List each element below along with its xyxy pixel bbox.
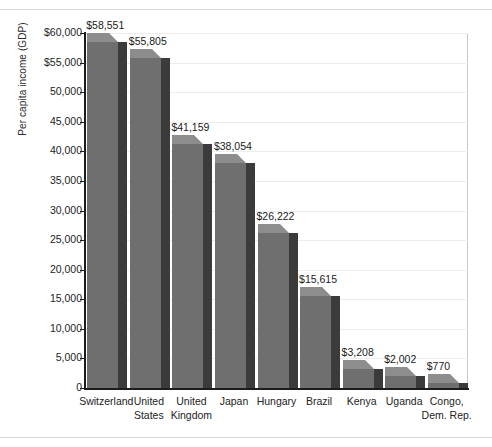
bar-side-face — [374, 369, 383, 388]
y-axis-tick — [80, 181, 84, 182]
y-axis-tick-label: 40,000 — [20, 145, 82, 156]
bar-front-face — [258, 233, 289, 388]
y-axis-line — [84, 32, 86, 389]
y-axis-tick — [80, 122, 84, 123]
bar-top-face — [87, 33, 118, 42]
bar-top-face — [258, 224, 289, 233]
bar-value-label: $55,805 — [129, 35, 167, 47]
y-axis-tick-label: 15,000 — [20, 293, 82, 304]
y-axis-tick-label: 25,000 — [20, 234, 82, 245]
bar-value-label: $15,615 — [299, 273, 337, 285]
y-axis-tick — [80, 240, 84, 241]
bar-top-face — [428, 374, 459, 383]
x-axis-category-line: Kingdom — [164, 409, 219, 423]
y-axis-tick-label: 10,000 — [20, 323, 82, 334]
bar-value-label: $38,054 — [214, 140, 252, 152]
bar-side-face — [161, 58, 170, 388]
y-axis-tick-label: 30,000 — [20, 205, 82, 216]
y-axis-tick-label: 0 — [20, 382, 82, 393]
y-axis-tick-label: 35,000 — [20, 175, 82, 186]
bar-top-face — [215, 154, 246, 163]
bar — [428, 374, 459, 388]
bar-side-face — [331, 296, 340, 388]
bar — [87, 33, 118, 388]
y-axis-tick-label: 45,000 — [20, 116, 82, 127]
y-axis-tick-label: 20,000 — [20, 264, 82, 275]
bar — [258, 224, 289, 388]
bar-front-face — [300, 296, 331, 388]
bar-side-face — [289, 233, 298, 388]
bar-front-face — [87, 42, 118, 388]
y-axis-tick — [80, 92, 84, 93]
bar-front-face — [215, 163, 246, 388]
y-axis-tick — [80, 33, 84, 34]
bar-value-label: $41,159 — [171, 121, 209, 133]
bar-value-label: $26,222 — [257, 210, 295, 222]
bar-front-face — [385, 376, 416, 388]
bar — [172, 135, 203, 388]
bar-front-face — [172, 144, 203, 388]
y-axis-tick-label: $60,000 — [20, 27, 82, 38]
y-axis-tick-labels: 05,00010,00015,00020,00025,00030,00035,0… — [14, 0, 82, 447]
y-axis-tick — [80, 151, 84, 152]
y-axis-tick — [80, 329, 84, 330]
bar-side-face — [416, 376, 425, 388]
x-axis-category-line: Congo, — [419, 395, 474, 409]
y-axis-tick — [80, 63, 84, 64]
bar-top-face — [343, 360, 374, 369]
y-axis-tick — [80, 358, 84, 359]
bar-value-label: $58,551 — [86, 19, 124, 31]
bar-chart-figure: Per capita income (GDP) 05,00010,00015,0… — [0, 0, 492, 447]
y-axis-tick — [80, 270, 84, 271]
x-axis-category-label: Congo,Dem. Rep. — [419, 395, 474, 422]
y-axis-tick-label: 50,000 — [20, 86, 82, 97]
y-axis-tick — [80, 211, 84, 212]
bar-top-face — [385, 367, 416, 376]
x-axis-category-line: Dem. Rep. — [419, 409, 474, 423]
y-axis-tick — [80, 388, 84, 389]
bar-value-label: $2,002 — [384, 353, 416, 365]
bar-front-face — [130, 58, 161, 388]
bar — [300, 287, 331, 388]
bar-value-label: $770 — [427, 360, 450, 372]
bar — [215, 154, 246, 388]
bar-side-face — [203, 144, 212, 388]
y-axis-tick-label: $55,000 — [20, 57, 82, 68]
bar-top-face — [172, 135, 203, 144]
bar-value-label: $3,208 — [342, 346, 374, 358]
bar-front-face — [343, 369, 374, 388]
bar-top-face — [300, 287, 331, 296]
bar — [385, 367, 416, 388]
y-axis-tick-label: 5,000 — [20, 352, 82, 363]
x-axis-line — [84, 388, 469, 390]
bar-side-face — [246, 163, 255, 388]
bar-top-face — [130, 49, 161, 58]
bar — [343, 360, 374, 388]
y-axis-tick — [80, 299, 84, 300]
bar-side-face — [118, 42, 127, 388]
x-axis-category-labels: SwitzerlandUnitedStatesUnitedKingdomJapa… — [85, 395, 470, 441]
plot-area: $58,551$55,805$41,159$38,054$26,222$15,6… — [85, 33, 468, 388]
bar — [130, 49, 161, 388]
